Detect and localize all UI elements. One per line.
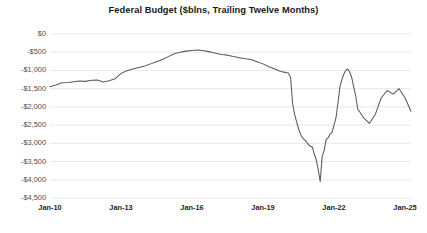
y-axis-tick-label: -$3,000 [21,138,46,147]
y-axis-tick-label: -$2,000 [21,102,46,111]
chart-container: Federal Budget ($blns, Trailing Twelve M… [0,0,427,233]
y-axis-tick-label: -$4,000 [21,175,46,184]
x-axis-tick-label: Jan-13 [91,203,151,212]
x-axis-tick-label: Jan-25 [375,203,427,212]
x-axis-tick-label: Jan-19 [233,203,293,212]
y-axis-tick-label: -$1,500 [21,84,46,93]
y-axis-tick-label: -$3,500 [21,157,46,166]
y-axis-tick-label: $0 [38,29,46,38]
x-axis-tick-label: Jan-16 [162,203,222,212]
gridlines [50,34,411,198]
y-axis-tick-label: -$2,500 [21,120,46,129]
y-axis-tick-label: -$4,500 [21,193,46,202]
x-axis-tick-label: Jan-10 [20,203,80,212]
x-axis-tick-label: Jan-22 [304,203,364,212]
y-axis-tick-label: -$1,000 [21,65,46,74]
y-axis-tick-label: -$500 [27,47,46,56]
plot-area [0,0,427,233]
